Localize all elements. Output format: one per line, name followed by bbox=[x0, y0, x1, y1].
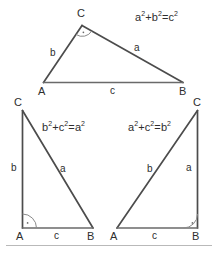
right-right-angle-arc bbox=[184, 214, 198, 228]
top-vertex-label-a: A bbox=[38, 86, 45, 97]
top-side-label-b: b bbox=[50, 48, 56, 58]
top-vertex-label-c: C bbox=[77, 8, 85, 19]
left-right-angle-arc bbox=[23, 214, 37, 228]
left-vertex-label-a: A bbox=[16, 231, 23, 242]
right-right-angle-dot bbox=[192, 222, 194, 224]
top-side-label-a: a bbox=[134, 43, 140, 53]
left-vertex-label-c: C bbox=[14, 97, 22, 108]
top-vertex-label-b: B bbox=[179, 86, 186, 97]
left-side-label-b: b bbox=[11, 163, 17, 173]
left-formula: b2+c2=a2 bbox=[42, 122, 85, 133]
right-side-label-b: b bbox=[147, 164, 153, 174]
right-side-label-a: a bbox=[186, 163, 192, 173]
top-side-label-c: c bbox=[110, 86, 115, 96]
left-side-label-a: a bbox=[60, 164, 66, 174]
top-side-a-edge bbox=[82, 26, 183, 83]
left-side-label-c: c bbox=[54, 231, 59, 241]
top-right-angle-dot bbox=[83, 31, 85, 33]
right-vertex-label-b: B bbox=[192, 231, 199, 242]
right-formula: a2+c2=b2 bbox=[128, 122, 171, 133]
diagram-canvas bbox=[0, 0, 218, 255]
left-vertex-label-b: B bbox=[87, 231, 94, 242]
right-vertex-label-c: C bbox=[193, 97, 201, 108]
right-vertex-label-a: A bbox=[110, 231, 117, 242]
left-right-angle-dot bbox=[27, 222, 29, 224]
pythagorean-diagram: C A B b a c a2+b2=c2 C A B b a c b2+c2=a… bbox=[0, 0, 218, 255]
triangle-top bbox=[44, 26, 184, 83]
top-formula: a2+b2=c2 bbox=[135, 12, 178, 23]
right-side-label-c: c bbox=[152, 231, 157, 241]
